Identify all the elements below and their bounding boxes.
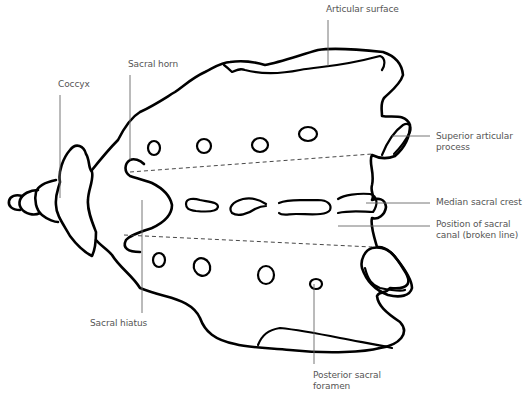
foramen-lower-3 bbox=[258, 266, 274, 284]
sacral-horn-upper bbox=[125, 159, 172, 252]
label-articular-surface: Articular surface bbox=[326, 4, 399, 15]
label-posterior-sacral-foramen-2: foramen bbox=[313, 381, 350, 392]
articular-surface-outline bbox=[224, 56, 384, 73]
sacral-canal-dashed-lower bbox=[124, 235, 372, 247]
median-crest-tubercle-3 bbox=[279, 200, 331, 215]
sacral-canal-dashed-upper bbox=[130, 154, 372, 172]
foramen-lower-1 bbox=[153, 253, 165, 267]
foramen-upper-1 bbox=[148, 141, 160, 155]
coccyx-main bbox=[56, 146, 96, 256]
label-superior-articular-process-1: Superior articular bbox=[436, 131, 513, 142]
label-sacral-horn: Sacral horn bbox=[128, 59, 178, 70]
foramen-lower-4 bbox=[310, 279, 322, 289]
foramen-lower-2 bbox=[191, 255, 214, 279]
label-sacral-canal-2: canal (broken line) bbox=[436, 230, 518, 241]
label-median-sacral-crest: Median sacral crest bbox=[436, 197, 522, 208]
label-sacral-canal-1: Position of sacral bbox=[436, 219, 511, 230]
label-coccyx: Coccyx bbox=[58, 79, 90, 90]
label-superior-articular-process-2: process bbox=[436, 142, 470, 153]
median-crest-tubercle-1 bbox=[186, 199, 218, 212]
superior-articular-process-upper bbox=[382, 124, 411, 155]
sacrum-outline bbox=[92, 49, 410, 352]
foramen-upper-3 bbox=[252, 138, 268, 152]
articular-surface-lower-outline bbox=[258, 328, 392, 348]
foramen-upper-4 bbox=[299, 127, 317, 141]
median-crest-tubercle-2 bbox=[230, 198, 266, 214]
label-sacral-hiatus: Sacral hiatus bbox=[90, 318, 147, 329]
label-posterior-sacral-foramen-1: Posterior sacral bbox=[313, 370, 381, 381]
foramen-upper-2 bbox=[197, 139, 211, 153]
